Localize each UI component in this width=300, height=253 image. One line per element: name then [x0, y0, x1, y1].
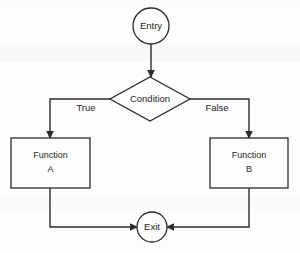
node-exit[interactable]: Exit: [137, 212, 167, 242]
function-a-box[interactable]: [11, 138, 90, 188]
condition-label: Condition: [130, 93, 170, 104]
flowchart-canvas: True False Entry Condition Function A Fu…: [0, 0, 300, 253]
function-b-label-line2: B: [246, 164, 252, 174]
edge-label-false: False: [205, 102, 228, 113]
function-a-label-line1: Function: [33, 150, 68, 160]
edge-label-true: True: [76, 102, 95, 113]
entry-label: Entry: [140, 20, 162, 31]
function-b-box[interactable]: [210, 138, 288, 188]
function-b-label-line1: Function: [232, 150, 267, 160]
arrowhead-entry-to-condition: [147, 70, 155, 78]
flowchart-diagram: True False Entry Condition Function A Fu…: [0, 0, 300, 253]
node-condition[interactable]: Condition: [110, 77, 190, 121]
exit-label: Exit: [144, 221, 160, 232]
node-function-a[interactable]: Function A: [11, 138, 90, 188]
function-a-label-line2: A: [47, 164, 53, 174]
node-entry[interactable]: Entry: [133, 8, 169, 44]
connector-function-a-to-exit: [50, 188, 137, 227]
connector-function-b-to-exit: [167, 188, 249, 227]
node-function-b[interactable]: Function B: [210, 138, 288, 188]
